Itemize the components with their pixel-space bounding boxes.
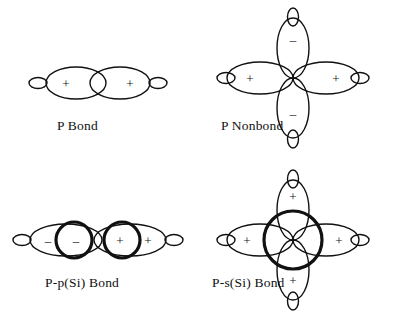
sign-right: + xyxy=(335,233,342,248)
lobe-right-minor xyxy=(149,78,167,89)
lobe-top-major xyxy=(277,18,309,78)
caption-pp-si-bond: P-p(Si) Bond xyxy=(45,275,119,291)
sign-bottom: – xyxy=(289,106,297,121)
sign-right: + xyxy=(332,71,339,86)
panel-p-bond: + + P Bond xyxy=(0,0,196,161)
lobe-right-major xyxy=(293,224,359,256)
sign-left-circle: – xyxy=(72,233,80,248)
sign-right: + xyxy=(126,76,133,91)
sign-left: + xyxy=(243,233,250,248)
figure-page: + + P Bond + + – – P Nonbond xyxy=(0,0,393,322)
lobe-top-minor xyxy=(288,8,299,26)
lobe-left-major xyxy=(227,62,293,94)
lobe-left-minor xyxy=(217,73,235,84)
sign-right-outer: + xyxy=(144,233,151,248)
pp-si-bond-diagram: – – + + xyxy=(0,161,196,322)
lobe-bottom-minor xyxy=(288,292,299,310)
p-bond-diagram: + + xyxy=(0,0,196,161)
sign-bottom: + xyxy=(289,273,296,288)
lobe-left-minor xyxy=(13,235,31,246)
lobe-right-major xyxy=(293,62,359,94)
sign-top: + xyxy=(289,189,296,204)
sign-right-circle: + xyxy=(116,233,123,248)
lobe-bottom-minor xyxy=(288,130,299,148)
ps-si-bond-diagram: + + + + xyxy=(197,161,393,322)
lobe-left-major xyxy=(227,224,293,256)
lobe-right-minor xyxy=(165,235,183,246)
panel-p-nonbond: + + – – P Nonbond xyxy=(197,0,393,161)
sign-left: + xyxy=(62,76,69,91)
sign-left-outer: – xyxy=(44,233,52,248)
caption-p-bond: P Bond xyxy=(57,118,98,134)
lobe-left-major xyxy=(46,67,106,99)
lobe-left-minor xyxy=(29,78,47,89)
lobe-right-minor xyxy=(351,73,369,84)
lobe-right-major xyxy=(90,67,150,99)
lobe-left-minor xyxy=(217,235,235,246)
lobe-top-minor xyxy=(288,170,299,188)
p-nonbond-diagram: + + – – xyxy=(197,0,393,161)
caption-ps-si-bond: P-s(Si) Bond xyxy=(212,275,285,291)
sign-left: + xyxy=(246,71,253,86)
caption-p-nonbond: P Nonbond xyxy=(221,118,283,134)
sign-top: – xyxy=(289,32,297,47)
panel-pp-si-bond: – – + + P-p(Si) Bond xyxy=(0,161,196,322)
panel-ps-si-bond: + + + + P-s(Si) Bond xyxy=(197,161,393,322)
lobe-right-minor xyxy=(351,235,369,246)
